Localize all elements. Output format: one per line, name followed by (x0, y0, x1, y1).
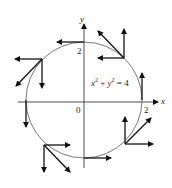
y-axis-label: y (79, 14, 84, 24)
origin-label: 0 (76, 105, 81, 115)
equation-label: x2 + y2 = 4 (90, 77, 129, 88)
x-axis-label: x (160, 96, 165, 106)
vector-field-diagram: y x 0 2 2 x2 + y2 = 4 (0, 0, 172, 188)
x-tick-label: 2 (144, 105, 149, 115)
y-tick-label: 2 (77, 46, 82, 56)
